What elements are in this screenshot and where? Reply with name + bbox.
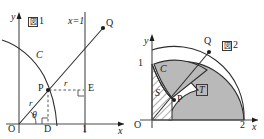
figure2-point-p-label: P: [177, 94, 183, 104]
figure2-tick-y-1: 1: [138, 58, 143, 68]
figure2-tag-mark: 図: [222, 41, 232, 51]
figure1-radius-label-right: r: [64, 79, 68, 88]
figure-canvas: y x O 図1 x=1 C P Q D E r r θ 1: [0, 0, 264, 139]
figure1-line-label: x=1: [68, 16, 84, 26]
figure1-tag: 図1: [28, 16, 44, 27]
figure1-angle-label: θ: [32, 110, 37, 120]
figure2-tick-x-2: 2: [240, 120, 245, 130]
figure1-x-axis: [6, 122, 124, 127]
figure1-radius-label-left: r: [29, 99, 33, 108]
figure1-tag-mark: 図: [28, 17, 38, 27]
figure2-point-p: [172, 98, 176, 102]
figure2-curve-label: C: [160, 64, 167, 74]
figure1-point-p-label: P: [38, 83, 44, 93]
figure1-point-q-label: Q: [106, 18, 113, 28]
figure1-point-p: [46, 88, 50, 92]
figure1-point-e-label: E: [88, 83, 94, 93]
figure1-y-axis: [17, 12, 22, 133]
figure2-point-q-label: Q: [204, 36, 211, 46]
figure2-tag-number: 2: [233, 39, 238, 50]
figure1-y-axis-label: y: [11, 12, 15, 22]
figure1-right-angle-e: [78, 90, 84, 96]
figure1-point-d-label: D: [44, 124, 51, 134]
figure2-x-axis-label: x: [252, 122, 256, 132]
figure1-tag-number: 1: [39, 15, 44, 26]
figure1-tick-x-1: 1: [82, 124, 87, 134]
figure1-origin-label: O: [8, 124, 15, 134]
figure1-x-axis-label: x: [118, 126, 122, 136]
figure1-point-q: [101, 26, 105, 30]
figure2-region-t-label: T: [196, 84, 208, 96]
figure1-curve-c: [2, 40, 57, 126]
figure2-region-s-label: S: [155, 88, 160, 98]
figure1-curve-label: C: [36, 50, 43, 60]
figure2-tag: 図2: [222, 40, 238, 51]
figure2-y-axis-label: y: [144, 36, 148, 46]
figure2-origin-label: O: [134, 120, 141, 130]
figure2-point-q: [207, 50, 211, 54]
